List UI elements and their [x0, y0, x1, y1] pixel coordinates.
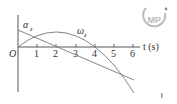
svg-text:ω: ω [77, 25, 84, 36]
tick-label-5: 5 [111, 48, 116, 59]
origin-label: O [9, 48, 16, 59]
tick-label-4: 4 [92, 48, 97, 59]
tick-label-2: 2 [53, 48, 58, 59]
tick-label-6: 6 [130, 48, 135, 59]
omega-z-label: ω z [77, 25, 87, 38]
omega-z-curve [18, 32, 134, 93]
x-axis-label: t (s) [143, 41, 159, 53]
svg-text:α: α [23, 19, 29, 30]
tick-label-3: 3 [73, 48, 78, 59]
mp-badge-text: MP [148, 15, 162, 25]
kinematics-graph: O 1 2 3 4 5 6 t (s) α z ω z MP [0, 0, 177, 104]
alpha-z-label: α z [23, 19, 33, 32]
svg-text:z: z [29, 25, 33, 32]
tick-label-1: 1 [34, 48, 39, 59]
svg-text:z: z [83, 31, 87, 38]
scroll-marker [161, 93, 163, 98]
mp-badge-icon[interactable]: MP [143, 8, 167, 27]
